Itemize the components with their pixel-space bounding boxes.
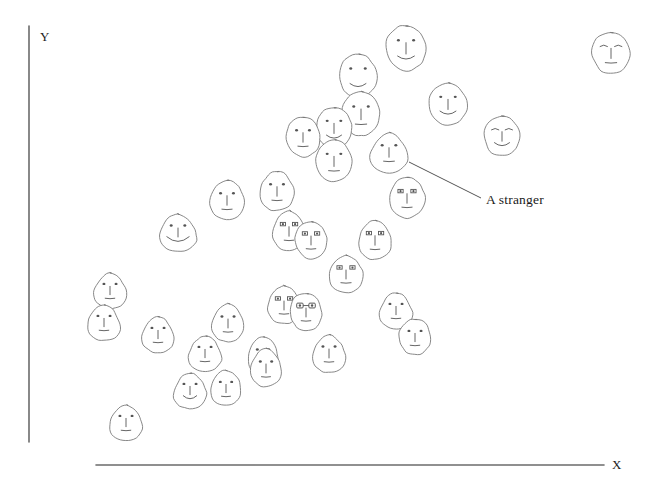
face-marker [88,305,121,341]
face-marker [211,303,243,342]
eye-pupil [338,266,340,268]
eye-dot [308,129,311,131]
eye-pupil [289,297,291,299]
face-marker [386,26,426,72]
eye-pupil [299,304,301,306]
eye-dot [118,415,121,417]
face-marker [94,273,127,309]
eye-dot [197,346,200,348]
face-marker [188,336,222,371]
face-marker [173,373,207,409]
eye-dot [232,192,235,194]
eye-dot [394,144,397,146]
eye-pupil [304,232,306,234]
eye-dot [339,153,342,155]
eye-dot [412,39,415,41]
eye-dot [259,360,262,362]
eye-dot [367,105,370,107]
eye-dot [339,120,342,122]
face-marker [211,370,241,405]
eye-pupil [351,266,353,268]
eye-dot [233,315,236,317]
eye-dot [364,67,367,69]
eye-dot [230,381,233,383]
face-marker [260,171,294,210]
eye-dot [219,381,222,383]
y-axis-label: Y [40,30,49,43]
eye-pupil [380,232,382,234]
eye-pupil [399,190,401,192]
eye-dot [150,327,153,329]
eye-dot [256,348,259,350]
eye-dot [269,183,272,185]
face-marker [316,140,352,182]
face-marker [370,132,408,173]
face-marker [329,255,363,293]
scatter-plot-figure: Y X A stranger [0,0,658,496]
eye-dot [439,96,442,98]
eye-dot [96,315,99,317]
eye-pupil [294,223,296,225]
face-marker [390,177,426,218]
eye-dot [282,183,285,185]
eye-dot [219,192,222,194]
face-marker [484,116,520,155]
face-marker [159,214,196,252]
eye-dot [109,315,112,317]
face-marker [290,294,322,331]
eye-dot [220,315,223,317]
eye-dot [349,67,352,69]
eye-dot [210,346,213,348]
eye-dot [397,39,400,41]
eye-dot [326,120,329,122]
face-marker [110,405,143,441]
eye-dot [420,330,423,332]
face-marker [399,319,431,354]
eye-dot [270,360,273,362]
face-marker [295,222,327,260]
x-axis-label: X [612,458,621,471]
face-outline [390,177,426,218]
eye-dot [102,283,105,285]
eye-dot [170,224,173,226]
face-marker [210,180,245,220]
plot-canvas [0,0,658,496]
face-marker [592,32,631,73]
eye-dot [183,224,186,226]
face-marker [359,220,391,259]
eye-dot [381,144,384,146]
eye-dot [401,303,404,305]
eye-dot [182,383,185,385]
eye-pupil [282,223,284,225]
face-marker [142,316,175,352]
annotation-label-a-stranger: A stranger [486,192,544,208]
eye-dot [334,345,337,347]
eye-dot [321,345,324,347]
eye-pupil [368,232,370,234]
face-marker [313,334,346,372]
eye-dot [115,283,118,285]
face-marker [340,54,378,98]
eye-pupil [277,297,279,299]
eye-dot [195,383,198,385]
face-outline [340,54,378,98]
eye-dot [163,327,166,329]
eye-dot [131,415,134,417]
face-marker [429,83,467,126]
eye-dot [388,303,391,305]
face-markers-group [88,26,630,441]
eye-dot [326,153,329,155]
face-marker [286,117,320,157]
eye-dot [407,330,410,332]
eye-pupil [412,190,414,192]
eye-pupil [311,304,313,306]
eye-dot [352,105,355,107]
eye-pupil [316,232,318,234]
eye-dot [454,96,457,98]
eye-dot [295,129,298,131]
